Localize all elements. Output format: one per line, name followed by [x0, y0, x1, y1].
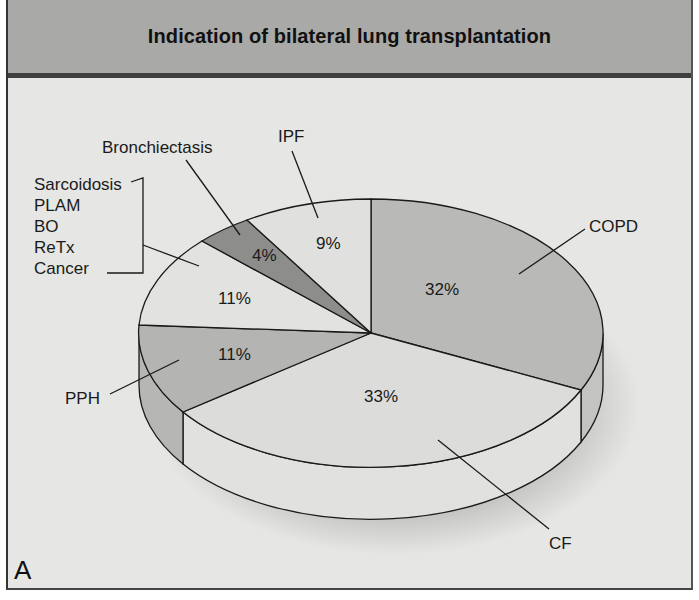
- label-retx: ReTx: [34, 238, 75, 257]
- label-copd: COPD: [589, 217, 638, 236]
- pct-bronchiectasis: 4%: [252, 246, 277, 265]
- label-pph: PPH: [65, 389, 100, 408]
- pct-cf: 33%: [364, 387, 398, 406]
- label-plam: PLAM: [34, 196, 80, 215]
- label-bo: BO: [34, 217, 59, 236]
- label-bronchiectasis: Bronchiectasis: [102, 138, 213, 157]
- pct-ipf: 9%: [316, 234, 341, 253]
- label-cancer: Cancer: [34, 259, 89, 278]
- pct-copd: 32%: [425, 280, 459, 299]
- label-sarcoidosis: Sarcoidosis: [34, 175, 122, 194]
- pct-pph: 11%: [218, 345, 251, 364]
- panel-label: A: [14, 555, 31, 586]
- pct-other: 11%: [218, 289, 251, 308]
- pie-chart: 32% 33% 11% 11% 4% 9% COPD CF PPH Bronch…: [0, 0, 699, 600]
- label-cf: CF: [549, 534, 572, 553]
- label-ipf: IPF: [278, 127, 304, 146]
- leader-bronchiectasis: [186, 160, 240, 235]
